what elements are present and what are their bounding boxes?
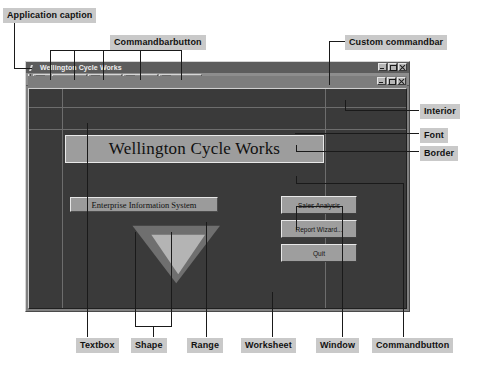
callout-range: Range <box>187 338 223 353</box>
leader-commandbar-drop-5 <box>181 50 182 80</box>
leader-border <box>296 151 419 152</box>
leader-window-horizontal <box>296 206 343 207</box>
leader-custom-commandbar-vertical <box>329 41 330 85</box>
leader-commandbar-bracket <box>50 50 181 51</box>
leader-commandbar-drop-4 <box>140 50 141 80</box>
leader-commandbutton <box>403 183 404 337</box>
leader-font <box>295 133 419 134</box>
leader-commandbutton-horizontal <box>296 183 404 184</box>
leader-border-tick <box>296 145 297 152</box>
sales-analysis-button-label: Sales Analysis <box>298 202 340 209</box>
small-triangle <box>151 235 205 275</box>
leader-range <box>206 222 207 337</box>
application-window[interactable]: Wellington Cycle Works Home Pivot Chart … <box>25 61 410 312</box>
quit-button-label: Quit <box>313 250 325 257</box>
leader-shape-stem <box>153 326 154 337</box>
callout-interior: Interior <box>420 104 460 119</box>
child-window-titlebar[interactable] <box>28 76 407 87</box>
worksheet-gridline <box>29 129 406 130</box>
close-button[interactable] <box>398 63 407 71</box>
callout-commandbutton: Commandbutton <box>372 338 453 353</box>
callout-shape: Shape <box>131 338 167 353</box>
callout-custom-commandbar: Custom commandbar <box>345 35 447 50</box>
leader-worksheet <box>272 292 273 337</box>
worksheet-gridline <box>62 89 63 308</box>
leader-window-tick <box>296 206 297 230</box>
child-window-controls <box>377 77 406 85</box>
report-wizard-button[interactable]: Report Wizard... <box>281 220 357 238</box>
leader-shape-drop-right <box>171 232 172 327</box>
leader-window <box>342 206 343 337</box>
callout-worksheet: Worksheet <box>241 338 296 353</box>
leader-commandbar-drop-2 <box>74 50 75 80</box>
application-titlebar[interactable]: Wellington Cycle Works <box>26 62 409 73</box>
child-restore-button[interactable] <box>387 77 396 85</box>
child-minimize-button[interactable] <box>377 77 386 85</box>
leader-textbox <box>87 123 88 337</box>
leader-application-caption-vertical <box>14 22 15 68</box>
leader-shape-drop-left <box>135 232 136 327</box>
leader-commandbar-drop-1 <box>50 50 51 80</box>
callout-textbox: Textbox <box>76 338 119 353</box>
callout-application-caption: Application caption <box>3 8 96 23</box>
leader-interior-tick <box>345 100 346 111</box>
leader-commandbar-drop-3 <box>103 50 104 80</box>
report-wizard-button-label: Report Wizard... <box>296 226 343 233</box>
leader-commandbutton-tick <box>296 176 297 184</box>
eis-textbox[interactable]: Enterprise Information System <box>70 197 218 212</box>
leader-interior <box>345 110 419 111</box>
sales-analysis-button[interactable]: Sales Analysis <box>281 196 357 214</box>
child-close-button[interactable] <box>397 77 406 85</box>
worksheet-gridline <box>29 107 406 108</box>
callout-commandbarbutton: Commandbarbutton <box>110 35 206 50</box>
minimize-button[interactable] <box>378 63 387 71</box>
window-controls <box>378 63 407 71</box>
eis-textbox-label: Enterprise Information System <box>92 200 197 210</box>
application-title: Wellington Cycle Works <box>40 63 122 72</box>
leader-application-caption-horizontal <box>14 68 32 69</box>
quit-button[interactable]: Quit <box>281 244 357 262</box>
callout-border: Border <box>420 146 458 161</box>
maximize-button[interactable] <box>388 63 397 71</box>
callout-font: Font <box>420 128 448 143</box>
callout-window: Window <box>316 338 359 353</box>
banner-range[interactable]: Wellington Cycle Works <box>65 135 324 163</box>
worksheet-window[interactable]: Wellington Cycle Works Enterprise Inform… <box>28 88 407 309</box>
banner-text: Wellington Cycle Works <box>109 139 280 159</box>
